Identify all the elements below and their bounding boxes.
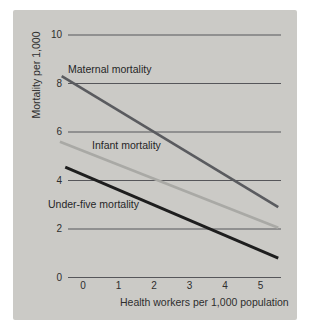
y-tick-label-0: 0 (34, 272, 62, 284)
series-line-infant-mortality (60, 142, 278, 228)
x-axis-title: Health workers per 1,000 population (120, 296, 280, 308)
y-tick-label-2: 2 (34, 223, 62, 235)
x-tick-label-3: 3 (178, 280, 202, 292)
x-tick-label-2: 2 (142, 280, 166, 292)
x-tick-label-1: 1 (107, 280, 131, 292)
y-tick-label-8: 8 (34, 78, 62, 90)
y-tick-label-6: 6 (34, 126, 62, 138)
x-tick-label-0: 0 (71, 280, 95, 292)
figure: Mortality per 1,000 1086420 012345 Mater… (0, 0, 309, 336)
y-tick-label-4: 4 (34, 175, 62, 187)
under-five-mortality-label: Under-five mortality (48, 198, 139, 210)
x-tick-label-4: 4 (213, 280, 237, 292)
x-tick-label-5: 5 (249, 280, 273, 292)
maternal-mortality-label: Maternal mortality (68, 63, 151, 75)
infant-mortality-label: Infant mortality (92, 139, 161, 151)
y-tick-label-10: 10 (34, 29, 62, 41)
series-lines (60, 76, 278, 258)
